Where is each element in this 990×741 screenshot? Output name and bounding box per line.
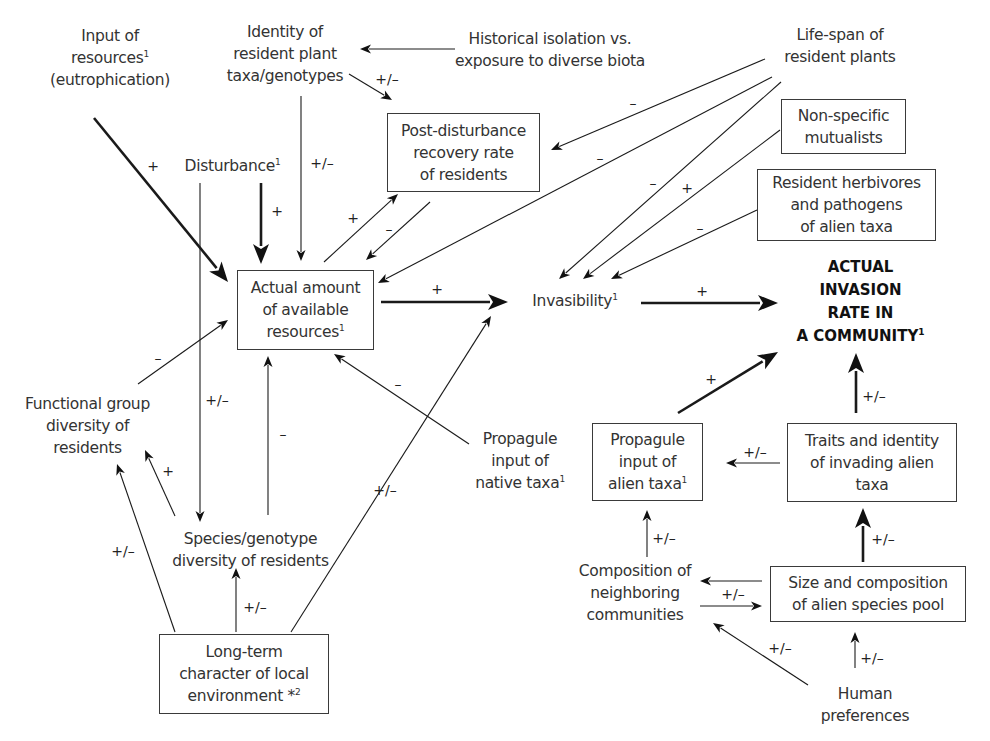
edge-sign-label: + [271,203,283,219]
arrowhead-icon [481,316,491,328]
edge-sign-label: + [147,158,159,174]
node-text-line: RATE IN [828,302,894,325]
arrowhead-icon [488,294,508,310]
node-text-line: ACTUAL [828,256,894,279]
diagram-canvas: Input ofresources1(eutrophication)Identi… [0,0,990,741]
node-text-line: Disturbance1 [185,155,281,177]
node-text-line: of residents [420,164,508,186]
arrowhead-icon [253,244,269,264]
node-text-line: (eutrophication) [50,69,170,91]
node-text-line: INVASION [819,279,901,302]
edge-arrow-historical-isolation-to-identity-resident [360,45,455,54]
edge-sign-label: + [347,210,359,226]
node-text-line: preferences [821,705,910,727]
footnote-marker: 1 [143,49,148,59]
edge-arrow-propagule-alien-to-invasion-rate [678,352,778,413]
node-text-line: Post-disturbance [401,120,526,142]
node-text-line: Invasibility1 [532,290,617,312]
edge-arrow-functional-group-to-actual-resources [138,320,228,384]
node-actual-resources: Actual amountof availableresources1 [237,270,374,350]
node-size-composition: Size and compositionof alien species poo… [770,566,966,622]
node-text-line: environment *2 [188,685,301,707]
edge-arrow-long-term-to-invasibility [291,316,491,632]
arrowhead-icon [334,354,346,364]
node-text-line: Functional group [25,393,150,415]
edge-arrow-actual-resources-to-invasibility [381,294,508,310]
edge-arrow-species-genotype-to-actual-resources [264,356,273,515]
node-text-line: of available [262,299,348,321]
node-text-line: Identity of [247,21,323,43]
edge-sign-label: – [280,426,287,442]
node-text-line: Traits and identity [805,430,939,452]
node-invasion-rate: ACTUALINVASIONRATE INA COMMUNITY1 [778,254,943,350]
edge-sign-label: + [696,283,708,299]
footnote-marker: 1 [682,475,687,485]
footnote-marker: 1 [339,323,344,333]
node-post-disturbance: Post-disturbancerecovery rateof resident… [387,113,540,192]
node-text-line: communities [587,604,684,626]
node-text-line: A COMMUNITY1 [796,325,924,348]
node-text-line: taxa/genotypes [227,65,344,87]
edge-sign-label: +/– [375,71,398,87]
edge-sign-label: + [162,463,174,479]
arrowhead-icon [216,320,228,330]
footnote-marker: 1 [918,327,924,337]
arrowhead-icon [378,274,390,283]
node-text-line: of alien species pool [792,594,944,616]
node-text-line: Propagule [610,429,685,451]
edge-arrow-composition-neighbor-to-propagule-alien [643,510,652,557]
edge-sign-label: – [395,376,402,392]
node-functional-group: Functional groupdiversity ofresidents [15,390,160,462]
node-text-line: residents [53,437,122,459]
node-text-line: Historical isolation vs. [469,28,632,50]
edge-sign-label: +/– [768,640,791,656]
arrowhead-icon [380,90,392,100]
edge-arrow-input-resources-to-actual-resources [94,118,228,282]
node-historical-isolation: Historical isolation vs.exposure to dive… [450,24,650,76]
arrowhead-icon [848,353,864,373]
node-disturbance: Disturbance1 [175,152,290,180]
node-text-line: character of local [179,663,309,685]
node-propagule-native: Propaguleinput ofnative taxa1 [465,425,575,497]
footnote-marker: 2 [295,687,300,697]
node-text-line: Input of [81,25,139,47]
node-text-line: Human [838,683,892,705]
node-text-line: Actual amount [251,277,360,299]
footnote-marker: 1 [275,157,280,167]
node-text-line: Composition of [579,560,691,582]
node-text-line: Long-term [205,641,282,663]
node-non-specific: Non-specificmutualists [781,99,906,154]
node-text-line: and pathogens [790,194,902,216]
node-text-line: recovery rate [413,142,513,164]
node-text-line: alien taxa1 [608,473,687,495]
node-text-line: diversity of residents [172,550,328,572]
edge-sign-label: – [650,175,657,191]
edge-arrow-traits-identity-to-invasion-rate [848,353,864,413]
node-text-line: Non-specific [798,105,889,127]
arrowhead-icon [209,261,228,282]
edge-arrow-human-preferences-to-size-composition [851,632,860,668]
edge-sign-label: +/– [111,543,134,559]
footnote-marker: 1 [559,474,564,484]
edge-sign-label: + [681,180,693,196]
edge-arrow-propagule-native-to-actual-resources [334,354,469,444]
edge-sign-label: +/– [310,155,333,171]
edge-sign-label: + [705,371,717,387]
node-text-line: input of [491,450,548,472]
edge-arrow-disturbance-to-species-genotype [196,183,205,522]
edge-arrow-post-disturbance-to-actual-resources [366,202,430,260]
node-text-line: diversity of [46,415,129,437]
edge-arrow-size-composition-to-composition-neighbor [700,577,762,586]
edge-sign-label: +/– [373,482,396,498]
edge-sign-label: – [155,350,162,366]
edge-sign-label: – [386,221,393,237]
edge-sign-label: – [597,150,604,166]
node-input-resources: Input ofresources1(eutrophication) [40,8,180,108]
edge-sign-label: – [630,95,637,111]
edge-arrow-long-term-to-species-genotype [232,568,241,632]
node-text-line: resources1 [71,47,149,69]
node-life-span: Life-span ofresident plants [770,20,910,72]
edge-sign-label: +/– [243,599,266,615]
node-text-line: mutualists [804,127,882,149]
edge-sign-label: +/– [860,650,883,666]
